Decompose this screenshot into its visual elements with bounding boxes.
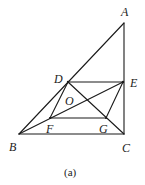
segment-ge [106,82,123,118]
point-labels: A B C D E F G O [9,5,138,155]
label-g: G [99,122,108,136]
triangle-abc [19,23,124,134]
segment-dc [68,82,124,134]
point-g-dot [105,117,107,119]
label-e: E [129,76,138,90]
point-d-dot [67,81,69,83]
label-b: B [9,140,17,154]
geometry-diagram: A B C D E F G O (a) [0,0,145,185]
label-d: D [53,72,63,86]
point-f-dot [49,117,51,119]
point-e-dot [122,81,124,83]
figure-caption: (a) [64,166,77,179]
label-f: F [45,122,54,136]
label-c: C [122,141,131,155]
label-o: O [65,94,74,108]
diagonals [19,82,124,134]
segment-ab [19,23,124,134]
label-a: A [120,5,129,19]
